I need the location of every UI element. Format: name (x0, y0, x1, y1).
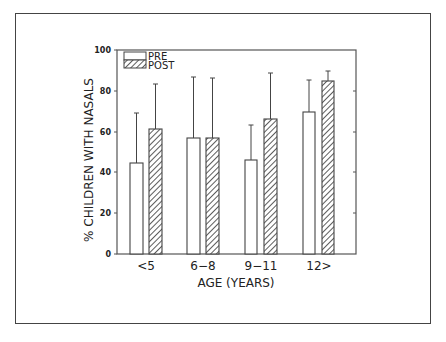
y-axis-title: % CHILDREN WITH NASALS (82, 78, 96, 242)
error-bars (134, 71, 331, 163)
x-category-12plus: 12> (306, 259, 331, 273)
bar-post-lt5 (149, 129, 162, 254)
bars (130, 81, 334, 254)
bar-pre-12plus (303, 112, 315, 254)
y-tick-60: 60 (100, 128, 112, 137)
legend-swatch-post (124, 60, 146, 68)
y-tick-0: 0 (105, 250, 111, 259)
y-tick-40: 40 (100, 168, 112, 177)
x-axis-title: AGE (YEARS) (197, 276, 274, 290)
x-category-6-8: 6−8 (190, 259, 215, 273)
bar-chart: 0 20 40 60 80 100 PRE POST <5 6−8 (0, 0, 446, 342)
legend-swatch-pre (124, 52, 146, 60)
bar-post-9-11 (264, 119, 277, 254)
bar-post-6-8 (206, 138, 219, 254)
bar-pre-lt5 (130, 163, 143, 254)
legend: PRE POST (124, 51, 175, 71)
bar-pre-9-11 (245, 160, 257, 254)
y-tick-80: 80 (100, 87, 112, 96)
x-category-9-11: 9−11 (245, 259, 278, 273)
x-category-lt5: <5 (137, 259, 155, 273)
legend-label-post: POST (148, 60, 175, 71)
bar-pre-6-8 (187, 138, 200, 254)
y-tick-20: 20 (100, 209, 112, 218)
bar-post-12plus (322, 81, 334, 254)
y-tick-100: 100 (94, 46, 111, 55)
